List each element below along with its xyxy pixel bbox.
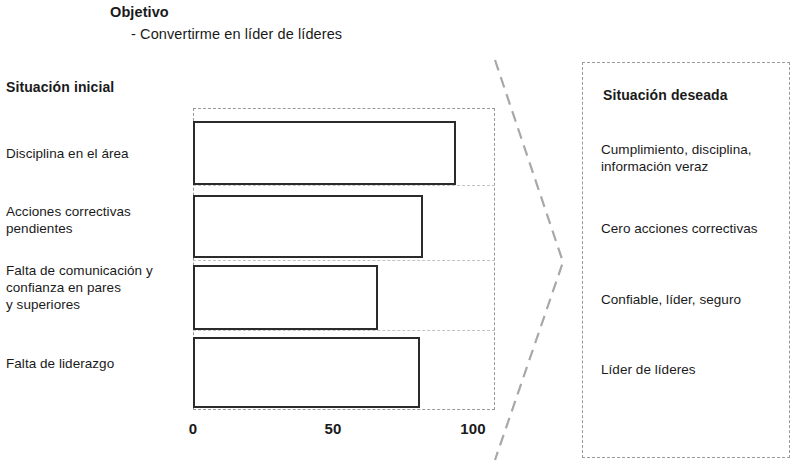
category-label-comunicacion: Falta de comunicación y confianza en par… <box>6 262 192 313</box>
desired-item-cumplimiento: Cumplimiento, disciplina, información ve… <box>601 141 783 175</box>
slide-canvas: Objetivo - Convertirme en líder de líder… <box>0 0 798 465</box>
objective-title: Objetivo <box>110 4 169 20</box>
bar-comunicacion <box>193 265 378 330</box>
desired-item-cero-acciones: Cero acciones correctivas <box>601 220 783 237</box>
desired-item-lider: Líder de líderes <box>601 361 783 378</box>
bar-acciones <box>193 195 423 258</box>
chevron-arrow-icon <box>485 50 580 465</box>
bar-liderazgo <box>193 337 420 408</box>
right-section-heading: Situación deseada <box>603 87 728 103</box>
right-section-panel: Situación deseada Cumplimiento, discipli… <box>582 62 790 458</box>
axis-tick-100: 100 <box>460 420 486 437</box>
bar-chart <box>193 108 495 410</box>
left-section-heading: Situación inicial <box>6 79 114 95</box>
bar-disciplina <box>193 121 456 185</box>
category-label-acciones: Acciones correctivas pendientes <box>6 203 192 237</box>
category-label-disciplina: Disciplina en el área <box>6 145 192 162</box>
gridline <box>193 260 495 261</box>
gridline <box>193 330 495 331</box>
axis-tick-50: 50 <box>324 420 341 437</box>
axis-tick-0: 0 <box>189 420 198 437</box>
gridline <box>193 185 495 186</box>
category-label-liderazgo: Falta de liderazgo <box>6 355 192 372</box>
desired-item-confiable: Confiable, líder, seguro <box>601 291 783 308</box>
objective-bullet: - Convertirme en líder de líderes <box>131 26 342 42</box>
